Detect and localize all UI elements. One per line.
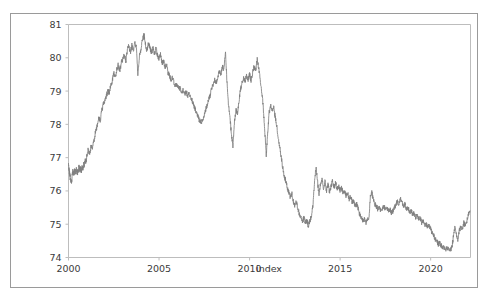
y-tick-label: 78: [49, 119, 61, 130]
plot-container: 20002005201020152020 7475767778798081 in…: [0, 0, 489, 301]
series-line-index: [69, 33, 470, 251]
x-axis-label: index: [256, 263, 282, 274]
axes-frame: [69, 25, 471, 258]
y-axis-ticks: 7475767778798081: [49, 19, 68, 263]
x-tick-label: 2005: [147, 263, 171, 274]
y-tick-label: 81: [49, 19, 61, 30]
x-tick-label: 2020: [419, 263, 443, 274]
y-tick-label: 77: [49, 152, 61, 163]
y-tick-label: 80: [49, 52, 61, 63]
data-series-group: [69, 33, 470, 251]
axes-spines: [69, 25, 471, 258]
x-tick-label: 2000: [56, 263, 80, 274]
y-tick-label: 79: [49, 86, 61, 97]
y-tick-label: 75: [49, 219, 61, 230]
y-tick-label: 76: [49, 185, 61, 196]
x-tick-label: 2015: [328, 263, 352, 274]
line-chart: 20002005201020152020 7475767778798081 in…: [0, 0, 489, 301]
x-axis-ticks: 20002005201020152020: [56, 258, 442, 274]
figure-canvas: 20002005201020152020 7475767778798081 in…: [0, 0, 489, 301]
y-tick-label: 74: [49, 252, 61, 263]
